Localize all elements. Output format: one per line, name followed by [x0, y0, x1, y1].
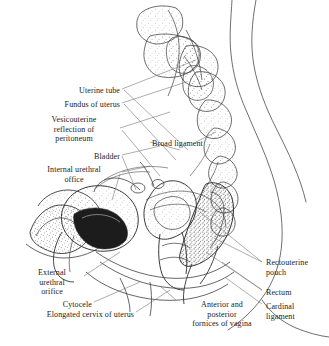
- body-outline-group: [228, 0, 329, 337]
- label-fundus-of-uterus: Fundus of uterus: [18, 100, 120, 110]
- label-anterior-posterior-fornices: Anterior and posterior fornices of vagin…: [178, 300, 266, 329]
- label-external-urethral-orifice: External urethral orifice: [22, 268, 82, 297]
- label-rectouterine-pouch: Rectouterine pouch: [266, 258, 326, 277]
- label-bladder: Bladder: [40, 152, 120, 162]
- label-elongated-cervix-of-uterus: Elongated cervix of uterus: [2, 310, 134, 320]
- label-uterine-tube: Uterine tube: [28, 86, 120, 96]
- label-rectum: Rectum: [266, 288, 326, 298]
- label-vesicouterine-reflection: Vesicouterine reflection of peritoneum: [30, 115, 118, 144]
- label-cardinal-ligament: Cardinal ligament: [266, 302, 326, 321]
- anatomical-figure: Uterine tube Fundus of uterus Vesicouter…: [0, 0, 329, 346]
- label-internal-urethral-office: Internal urethral office: [28, 165, 120, 184]
- label-broad-ligament: Broad ligament: [152, 139, 232, 149]
- label-cytocele: Cytocele: [30, 300, 92, 310]
